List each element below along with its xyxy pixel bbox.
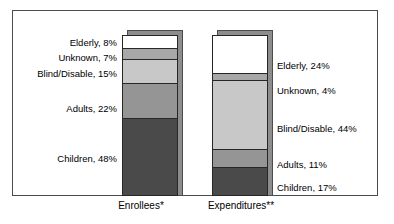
enrollees-label-adults: Adults, 22%: [13, 103, 117, 114]
enrollees-segment-children[interactable]: [123, 119, 177, 195]
expenditures-label-children: Children, 17%: [277, 182, 387, 193]
enrollees-label-children: Children, 48%: [13, 153, 117, 164]
plot-area-frame: Elderly, 8% Unknown, 7% Blind/Disable, 1…: [12, 10, 378, 196]
enrollees-segment-elderly[interactable]: [123, 36, 177, 49]
expenditures-label-adults: Adults, 11%: [277, 159, 387, 170]
enrollees-label-unknown: Unknown, 7%: [13, 52, 117, 63]
axis-label-expenditures: Expenditures**: [181, 200, 301, 212]
expenditures-bar[interactable]: [212, 35, 268, 196]
enrollees-segment-blind-disable[interactable]: [123, 60, 177, 84]
axis-label-enrollees: Enrollees*: [91, 200, 191, 212]
expenditures-segment-children[interactable]: [213, 168, 267, 195]
expenditures-label-elderly: Elderly, 24%: [277, 60, 387, 71]
enrollees-segment-unknown[interactable]: [123, 49, 177, 60]
expenditures-segment-elderly[interactable]: [213, 36, 267, 74]
enrollees-bar[interactable]: [122, 35, 178, 196]
enrollees-label-blind-disable: Blind/Disable, 15%: [13, 68, 117, 79]
expenditures-segment-adults[interactable]: [213, 150, 267, 167]
enrollees-segment-adults[interactable]: [123, 84, 177, 119]
expenditures-label-unknown: Unknown, 4%: [277, 85, 387, 96]
enrollees-label-elderly: Elderly, 8%: [13, 37, 117, 48]
expenditures-segment-blind-disable[interactable]: [213, 81, 267, 151]
chart-screenshot: Elderly, 8% Unknown, 7% Blind/Disable, 1…: [0, 0, 394, 224]
expenditures-label-blind-disable: Blind/Disable, 44%: [277, 123, 387, 134]
